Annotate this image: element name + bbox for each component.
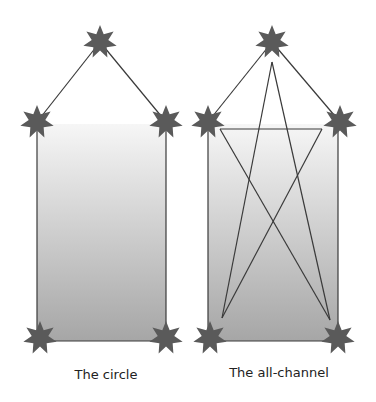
node-star-icon <box>255 25 288 57</box>
communication-networks-diagram <box>0 0 376 402</box>
circle-gradient-area <box>37 124 166 341</box>
circle-caption: The circle <box>75 367 138 382</box>
node-star-icon <box>83 25 116 57</box>
all-channel-caption: The all-channel <box>229 365 329 380</box>
all-channel-network <box>191 25 356 353</box>
circle-network <box>20 25 182 353</box>
